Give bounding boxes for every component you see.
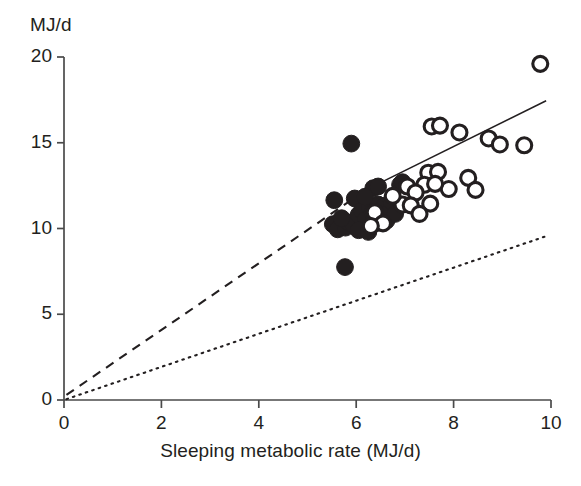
x-tick-label: 0 — [39, 412, 89, 434]
data-point-filled — [337, 259, 354, 276]
x-tick-label: 6 — [331, 412, 381, 434]
x-tick-label: 4 — [234, 412, 284, 434]
y-tick-label: 20 — [12, 45, 52, 67]
y-tick-label: 15 — [12, 131, 52, 153]
data-point-open — [533, 56, 548, 71]
scatter-plot-figure: MJ/d Sleeping metabolic rate (MJ/d) 0510… — [0, 0, 581, 486]
data-point-open — [363, 218, 378, 233]
y-tick-label: 0 — [12, 388, 52, 410]
data-point-open — [432, 118, 447, 133]
data-point-open — [492, 137, 507, 152]
data-point-filled — [343, 135, 360, 152]
x-tick-label: 8 — [429, 412, 479, 434]
dashed-reference-line — [66, 195, 358, 395]
data-point-open — [452, 125, 467, 140]
x-tick-label: 2 — [136, 412, 186, 434]
data-point-filled — [333, 210, 350, 227]
y-tick-label: 10 — [12, 217, 52, 239]
y-tick-label: 5 — [12, 302, 52, 324]
dotted-reference-line — [66, 235, 548, 399]
data-point-filled — [326, 192, 343, 209]
data-point-open — [412, 206, 427, 221]
data-point-open — [428, 176, 443, 191]
data-point-open — [468, 182, 483, 197]
data-point-open — [385, 188, 400, 203]
data-point-open — [517, 138, 532, 153]
x-tick-label: 10 — [526, 412, 576, 434]
data-point-filled — [357, 188, 374, 205]
